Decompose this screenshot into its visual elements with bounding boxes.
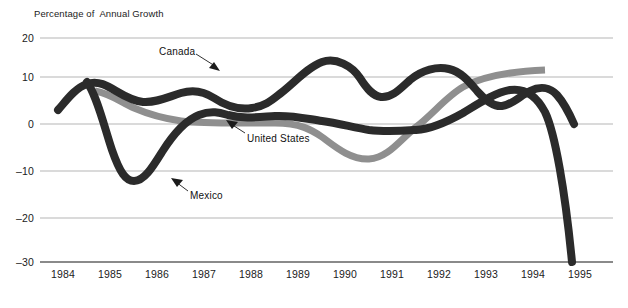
plot-area bbox=[0, 0, 628, 308]
series-label-canada: Canada bbox=[159, 46, 195, 57]
canada-leader-line bbox=[196, 54, 215, 66]
series-label-united-states: United States bbox=[247, 133, 310, 144]
series-label-mexico: Mexico bbox=[190, 190, 223, 201]
chart-page: Percentage of Annual Growth 20 10 0 –10 … bbox=[0, 0, 628, 308]
